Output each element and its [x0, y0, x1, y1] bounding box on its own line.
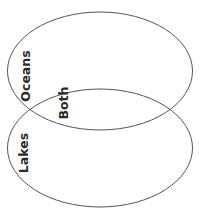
venn-diagram: Oceans Both Lakes — [0, 0, 207, 215]
lakes-label: Lakes — [16, 133, 31, 173]
oceans-label: Oceans — [18, 50, 33, 101]
oceans-ellipse — [8, 12, 193, 130]
lakes-ellipse — [8, 89, 193, 207]
both-label: Both — [56, 87, 71, 120]
